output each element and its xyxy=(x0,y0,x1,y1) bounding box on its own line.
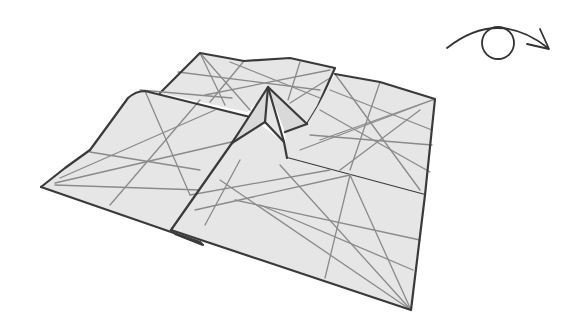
turn-over-circle xyxy=(482,27,514,59)
turn-over-icon xyxy=(447,27,549,59)
origami-diagram xyxy=(0,0,579,331)
